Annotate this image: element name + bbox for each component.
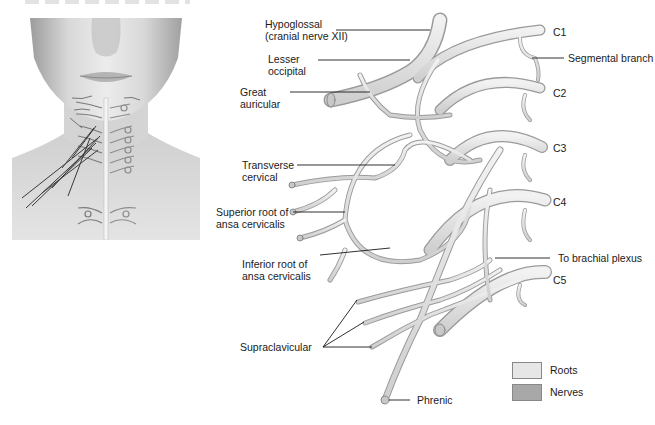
label-to-brachial-plexus: To brachial plexus (558, 252, 642, 264)
label-lesser-occipital: Lesser occipital (268, 53, 306, 77)
legend-item-roots: Roots (512, 360, 583, 380)
legend-item-nerves: Nerves (512, 382, 583, 402)
label-superior-root-ansa: Superior root of ansa cervicalis (216, 206, 288, 230)
roots-swatch (512, 362, 542, 379)
label-supraclavicular: Supraclavicular (240, 341, 312, 353)
legend: Roots Nerves (512, 360, 583, 404)
label-great-auricular: Great auricular (240, 86, 280, 110)
label-c1: C1 (553, 26, 566, 38)
label-c4: C4 (553, 196, 566, 208)
label-hypoglossal: Hypoglossal (cranial nerve XII) (265, 18, 348, 42)
label-c5: C5 (553, 274, 566, 286)
label-transverse-cervical: Transverse cervical (242, 159, 294, 183)
label-inferior-root-ansa: Inferior root of ansa cervicalis (242, 258, 311, 282)
nerves-swatch (512, 384, 542, 401)
label-phrenic: Phrenic (417, 394, 453, 406)
figure: Hypoglossal (cranial nerve XII) Lesser o… (0, 0, 655, 425)
label-c3: C3 (553, 142, 566, 154)
label-c2: C2 (553, 87, 566, 99)
label-segmental-branch: Segmental branch (568, 52, 653, 64)
